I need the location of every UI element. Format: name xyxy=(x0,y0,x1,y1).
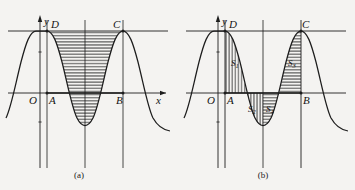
label-point-c: C xyxy=(302,18,310,30)
label-point-b: B xyxy=(116,94,123,106)
label-point-b: B xyxy=(303,94,310,106)
label-point-c: C xyxy=(113,18,121,30)
panel-caption-b: (b) xyxy=(258,170,269,180)
panel-b: S1 S2 S4 S3 D C O A B y (b) xyxy=(178,0,355,190)
panel-caption-a: (a) xyxy=(74,170,84,180)
label-point-o: O xyxy=(29,94,37,106)
y-axis xyxy=(216,15,220,168)
label-point-a: A xyxy=(226,94,234,106)
figure-root: D C O A B x y (a) xyxy=(0,0,355,190)
vertical-guide-lines xyxy=(225,20,301,168)
label-point-a: A xyxy=(48,94,56,106)
label-axis-y: y xyxy=(221,15,227,27)
label-axis-x: x xyxy=(155,94,161,106)
panel-a: D C O A B x y (a) xyxy=(0,0,177,190)
y-axis xyxy=(38,15,42,168)
label-point-o: O xyxy=(207,94,215,106)
label-point-d: D xyxy=(228,18,237,30)
label-axis-y: y xyxy=(43,15,49,27)
label-point-d: D xyxy=(50,18,59,30)
